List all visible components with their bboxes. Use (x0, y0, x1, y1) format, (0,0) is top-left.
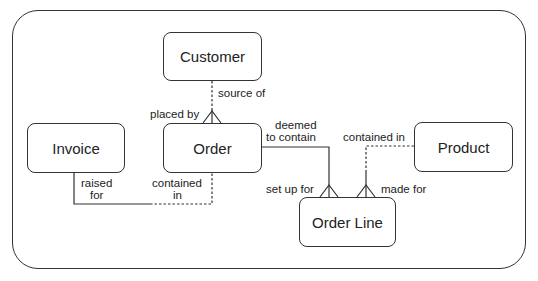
entity-order-line-label: Order Line (312, 214, 383, 231)
label-made-for: made for (381, 183, 426, 195)
label-to-contain: to contain (266, 131, 316, 143)
label-for: for (90, 189, 103, 201)
label-source-of: source of (218, 87, 265, 99)
label-contained: contained (152, 177, 202, 189)
entity-product[interactable]: Product (414, 122, 513, 172)
entity-customer[interactable]: Customer (163, 32, 262, 81)
label-raised: raised (81, 177, 112, 189)
entity-invoice-label: Invoice (52, 140, 100, 157)
entity-order[interactable]: Order (163, 123, 262, 173)
entity-order-label: Order (193, 140, 231, 157)
label-contained-in: contained in (343, 131, 405, 143)
entity-customer-label: Customer (180, 48, 245, 65)
label-set-up-for: set up for (266, 183, 314, 195)
entity-order-line[interactable]: Order Line (299, 197, 396, 247)
entity-product-label: Product (438, 139, 490, 156)
label-placed-by: placed by (150, 108, 199, 120)
product-orderline-line (366, 146, 414, 172)
entity-invoice[interactable]: Invoice (27, 123, 125, 173)
label-in: in (173, 189, 182, 201)
label-deemed: deemed (275, 119, 317, 131)
